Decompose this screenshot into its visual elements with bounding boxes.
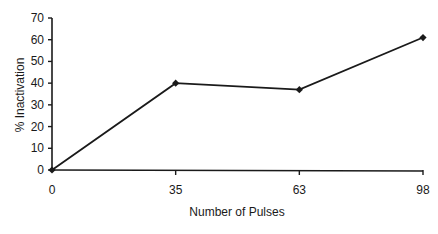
x-tick-label: 35: [169, 183, 183, 197]
data-series: [48, 34, 426, 174]
y-tick-label: 10: [31, 141, 45, 155]
x-tick-label: 98: [416, 183, 430, 197]
y-tick-label: 60: [31, 33, 45, 47]
y-tick-label: 20: [31, 120, 45, 134]
y-tick-label: 70: [31, 11, 45, 25]
x-axis: 0356398: [49, 170, 430, 197]
y-tick-label: 30: [31, 98, 45, 112]
x-axis-title: Number of Pulses: [189, 205, 284, 219]
y-tick-label: 40: [31, 76, 45, 90]
y-tick-label: 50: [31, 54, 45, 68]
y-axis: 010203040506070: [31, 11, 52, 177]
line-chart: 010203040506070 0356398 Number of Pulses…: [0, 0, 438, 234]
diamond-marker: [419, 34, 426, 41]
y-tick-label: 0: [37, 163, 44, 177]
y-axis-title: % Inactivation: [13, 58, 27, 133]
x-tick-label: 63: [293, 183, 307, 197]
x-tick-label: 0: [49, 183, 56, 197]
diamond-marker: [296, 86, 303, 93]
series-line: [52, 38, 423, 170]
